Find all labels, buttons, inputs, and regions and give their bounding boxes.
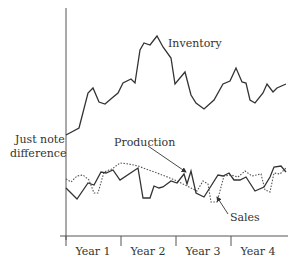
production-arrow (148, 146, 186, 172)
series-inventory (66, 36, 286, 135)
sales-label: Sales (230, 211, 260, 224)
sales-arrow (217, 197, 228, 214)
production-label: Production (114, 136, 175, 149)
x-tick-label-year3: Year 3 (184, 245, 220, 258)
x-tick-label-year4: Year 4 (239, 245, 275, 258)
x-tick-label-year2: Year 2 (129, 245, 165, 258)
inventory-label: Inventory (168, 37, 223, 50)
line-chart: Inventory Production Sales Just note dif… (0, 0, 304, 274)
series-production (66, 166, 286, 199)
x-tick-label-year1: Year 1 (74, 245, 110, 258)
y-axis-label-line2: difference (10, 147, 66, 160)
y-axis-label-line1: Just note (14, 133, 65, 146)
